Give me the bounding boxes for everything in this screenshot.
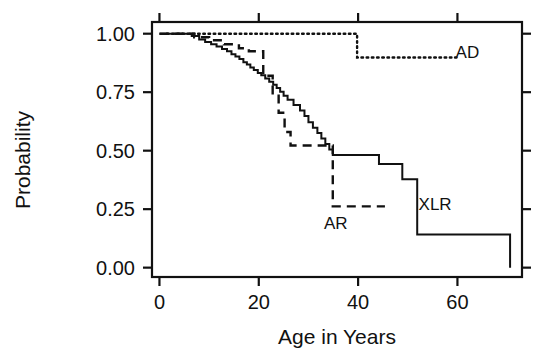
y-tick-label-0.75: 0.75 xyxy=(96,81,135,103)
series-label-ar: AR xyxy=(324,214,348,233)
curve-ar xyxy=(159,34,384,207)
figure-root: 0204060 0.000.250.500.751.00 XLRARAD Age… xyxy=(0,0,541,351)
y-tick-label-1.00: 1.00 xyxy=(96,23,135,45)
y-tick-label-0.50: 0.50 xyxy=(96,140,135,162)
curve-ad xyxy=(167,34,457,58)
x-axis-ticks-bottom xyxy=(159,277,457,286)
y-tick-label-0.25: 0.25 xyxy=(96,198,135,220)
x-tick-label-20: 20 xyxy=(248,291,270,313)
y-axis-title: Probability xyxy=(11,110,34,209)
y-axis-ticks-right xyxy=(522,34,531,268)
y-tick-label-0.00: 0.00 xyxy=(96,257,135,279)
survival-curve-chart: 0204060 0.000.250.500.751.00 XLRARAD Age… xyxy=(0,0,541,351)
y-axis-tick-labels: 0.000.250.500.751.00 xyxy=(96,23,135,279)
series-label-ad: AD xyxy=(456,43,480,62)
y-axis-ticks-left xyxy=(143,34,152,268)
x-axis-ticks-top xyxy=(159,13,457,22)
x-axis-tick-labels: 0204060 xyxy=(154,291,469,313)
x-tick-label-60: 60 xyxy=(446,291,468,313)
x-axis-title: Age in Years xyxy=(278,325,396,348)
series-annotations: XLRARAD xyxy=(324,43,479,233)
x-tick-label-40: 40 xyxy=(347,291,369,313)
x-tick-label-0: 0 xyxy=(154,291,165,313)
series-label-xlr: XLR xyxy=(419,195,452,214)
